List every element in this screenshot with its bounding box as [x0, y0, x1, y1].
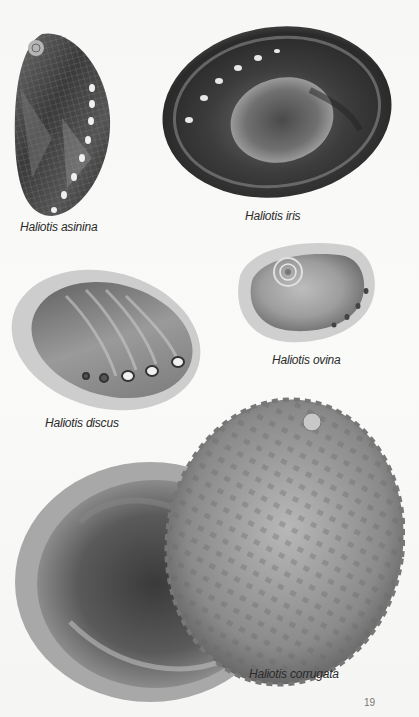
shell-photo-asinina [12, 28, 112, 218]
book-page: Haliotis asinina [0, 0, 419, 717]
page-number: 19 [364, 697, 375, 708]
shell-ovina-image [230, 236, 380, 348]
shell-photo-ovina [230, 236, 380, 348]
caption-corrugata: Haliotis corrugata [249, 667, 339, 681]
shell-photo-corrugata [10, 392, 405, 707]
shell-corrugata-image [10, 392, 405, 707]
caption-asinina: Haliotis asinina [20, 220, 98, 234]
caption-iris: Haliotis iris [245, 209, 300, 223]
caption-ovina: Haliotis ovina [272, 353, 341, 367]
shell-photo-iris [160, 20, 394, 202]
shell-asinina-image [12, 28, 112, 218]
shell-iris-image [160, 20, 394, 202]
